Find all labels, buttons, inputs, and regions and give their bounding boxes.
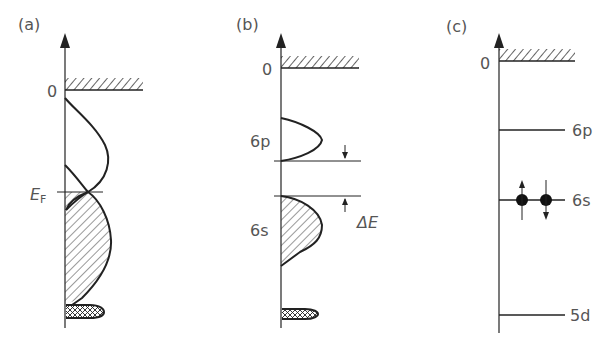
axis-arrow-icon bbox=[494, 33, 504, 48]
zero-label-b: 0 bbox=[262, 60, 272, 79]
gap-label: ΔE bbox=[355, 213, 379, 232]
panel-a: (a) 0 EF bbox=[18, 15, 143, 328]
panel-label-b: (b) bbox=[236, 15, 259, 34]
axis-arrow-icon bbox=[276, 33, 286, 48]
zero-label-a: 0 bbox=[47, 82, 57, 101]
6s-band-label: 6s bbox=[250, 221, 269, 240]
axis-arrow-icon bbox=[60, 33, 70, 48]
panel-label-c: (c) bbox=[446, 17, 467, 36]
6s-level-label: 6s bbox=[572, 191, 591, 210]
6s-occupied-hatch bbox=[281, 196, 322, 266]
arrow-up-icon bbox=[342, 198, 348, 205]
6p-level-label: 6p bbox=[572, 121, 592, 140]
zero-label-c: 0 bbox=[480, 54, 490, 73]
arrow-up-icon bbox=[519, 180, 525, 188]
lower-band-top-curve bbox=[65, 165, 88, 192]
6p-band-curve bbox=[281, 118, 322, 161]
fermi-label: EF bbox=[30, 185, 46, 206]
panel-c: (c) 0 6p 6s 5d bbox=[446, 17, 592, 333]
arrow-down-icon bbox=[342, 152, 348, 159]
vacuum-level-hatch bbox=[65, 78, 143, 90]
arrow-down-icon bbox=[543, 212, 549, 220]
panel-b: (b) 0 6p 6s ΔE bbox=[236, 15, 379, 328]
vacuum-level-hatch bbox=[499, 49, 575, 61]
5d-level-label: 5d bbox=[570, 306, 590, 325]
panel-label-a: (a) bbox=[18, 15, 40, 34]
energy-diagram: (a) 0 EF (b) 0 6p bbox=[0, 0, 611, 345]
6p-band-label: 6p bbox=[250, 132, 270, 151]
occupied-states-hatch bbox=[65, 192, 111, 305]
vacuum-level-hatch bbox=[281, 56, 359, 68]
